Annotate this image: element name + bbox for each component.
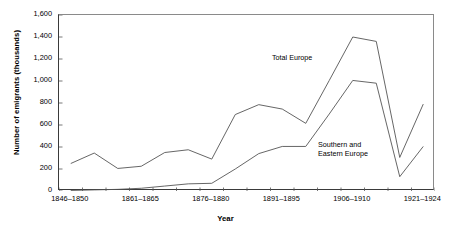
series-label-total-europe: Total Europe [272, 53, 312, 62]
series-line [71, 37, 424, 168]
y-tick-label: 0 [18, 186, 52, 194]
series-label-southern-eastern-europe: Southern and Eastern Europe [318, 140, 368, 158]
y-tick-label: 600 [18, 120, 52, 128]
series-lines [59, 15, 435, 191]
series-line [71, 80, 424, 190]
y-tick-label: 1,400 [18, 32, 52, 40]
y-tick-label: 1,000 [18, 76, 52, 84]
plot-area [58, 14, 434, 190]
y-tick-label: 400 [18, 142, 52, 150]
series-label-line-1: Southern and [318, 140, 368, 149]
y-tick-label: 800 [18, 98, 52, 106]
y-tick-label: 200 [18, 164, 52, 172]
x-tick-label: 1861–1865 [122, 194, 159, 203]
x-axis-title: Year [0, 214, 451, 223]
y-tick-label: 1,200 [18, 54, 52, 62]
emigration-line-chart: Number of emigrants (thousands) 02004006… [0, 0, 451, 236]
x-tick-label: 1846–1850 [51, 194, 88, 203]
series-label-line-2: Eastern Europe [318, 149, 368, 158]
x-tick-label: 1891–1895 [263, 194, 300, 203]
x-axis-tick-labels: 1846–18501861–18651876–18801891–18951906… [0, 194, 451, 208]
y-tick-label: 1,600 [18, 10, 52, 18]
x-tick-label: 1906–1910 [333, 194, 370, 203]
x-tick-label: 1876–1880 [192, 194, 229, 203]
x-tick-label: 1921–1924 [404, 194, 441, 203]
